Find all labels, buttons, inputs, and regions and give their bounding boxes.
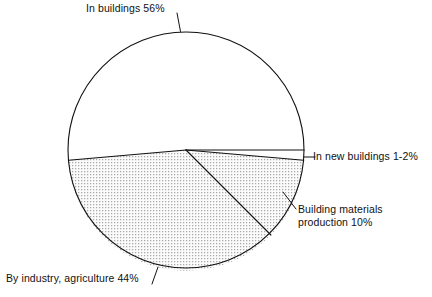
pie-slices (68, 33, 304, 271)
pie-chart-svg (0, 0, 432, 297)
leader-line-in-buildings (177, 13, 181, 32)
label-in-buildings-text: In buildings 56% (86, 2, 165, 14)
label-in-new-buildings-text: In new buildings 1-2% (313, 150, 418, 162)
label-in-buildings: In buildings 56% (86, 2, 165, 15)
label-building-materials-line2: production 10% (298, 216, 418, 229)
label-building-materials-production: Building materials production 10% (298, 203, 418, 229)
label-in-new-buildings: In new buildings 1-2% (313, 150, 418, 163)
label-by-industry-agriculture-text: By industry, agriculture 44% (6, 272, 139, 284)
pie-slice-in-buildings[interactable] (68, 33, 304, 150)
label-building-materials-line1: Building materials (298, 203, 418, 216)
leader-line-by-industry (152, 267, 158, 284)
pie-chart-figure: In buildings 56% In new buildings 1-2% B… (0, 0, 432, 297)
label-by-industry-agriculture: By industry, agriculture 44% (6, 272, 139, 285)
